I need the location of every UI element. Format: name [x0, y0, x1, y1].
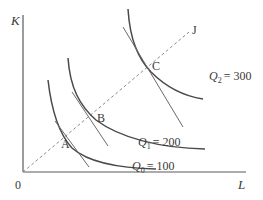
point-label-b: B [97, 111, 105, 125]
expansion-ray [23, 32, 189, 172]
point-label-a: A [61, 137, 70, 151]
tangent-line-c [123, 27, 183, 127]
isoquant-diagram: K L 0 J A B C Q0= 100 Q1= 200 Q2= 300 [0, 0, 263, 200]
point-label-c: C [152, 59, 160, 73]
origin-label: 0 [15, 178, 21, 192]
ray-label-j: J [192, 23, 197, 37]
x-axis-label: L [237, 177, 245, 192]
isoquant-q0-label: Q0= 100 [132, 159, 174, 175]
isoquant-q2-label: Q2= 300 [209, 69, 251, 85]
isoquant-q1-label: Q1= 200 [138, 135, 180, 151]
y-axis-label: K [10, 13, 21, 28]
isoquant-q1-curve [68, 58, 205, 149]
